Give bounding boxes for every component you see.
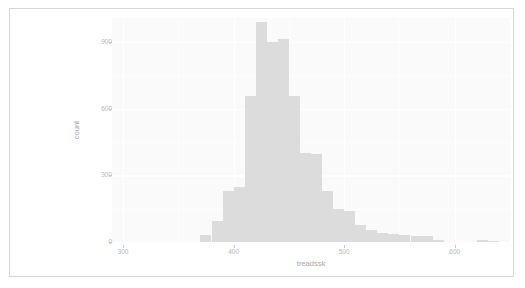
histogram-bar <box>311 154 322 242</box>
y-axis-tick-mark <box>109 242 112 243</box>
x-axis-tick-mark <box>234 245 235 248</box>
histogram-bar <box>344 211 355 242</box>
histogram-bar <box>477 240 488 242</box>
gridline-x-minor <box>399 18 400 242</box>
gridline-y-major <box>112 109 510 110</box>
x-axis-tick-label: 500 <box>339 248 350 256</box>
gridline-x-minor <box>178 18 179 242</box>
histogram-bar <box>488 241 499 242</box>
histogram-bar <box>256 22 267 242</box>
histogram-bar <box>366 230 377 242</box>
plot-panel <box>112 18 510 242</box>
x-axis-tick-mark <box>344 245 345 248</box>
x-axis-tick-label: 400 <box>228 248 239 256</box>
histogram-bar <box>245 96 256 242</box>
histogram-bar <box>289 96 300 242</box>
histogram-bar <box>223 191 234 242</box>
histogram-bar <box>333 209 344 242</box>
gridline-y-minor <box>112 142 510 143</box>
histogram-bar <box>200 235 211 242</box>
histogram-bar <box>411 236 422 242</box>
x-axis-tick-mark <box>123 245 124 248</box>
histogram-bar <box>377 233 388 242</box>
y-axis-tick-mark <box>109 42 112 43</box>
histogram-bar <box>234 187 245 242</box>
histogram-bar <box>322 191 333 242</box>
histogram-bar <box>355 225 366 242</box>
y-axis-tick-mark <box>109 109 112 110</box>
gridline-x-major <box>455 18 456 242</box>
x-axis-tick-label: 600 <box>449 248 460 256</box>
histogram-bar <box>267 42 278 242</box>
x-axis-title: treadssk <box>112 259 510 268</box>
histogram-bar <box>388 234 399 242</box>
histogram-bar <box>399 235 410 242</box>
gridline-y-minor <box>112 76 510 77</box>
x-axis-tick-mark <box>455 245 456 248</box>
gridline-x-major <box>123 18 124 242</box>
x-axis-tick-label: 300 <box>118 248 129 256</box>
y-axis-title: count <box>72 18 84 242</box>
screenshot-canvas: 0300600900 300400500600 treadssk count <box>0 0 525 288</box>
histogram-bar <box>433 240 444 242</box>
histogram-bar <box>278 39 289 242</box>
gridline-y-major <box>112 42 510 43</box>
y-axis-tick-mark <box>109 175 112 176</box>
histogram-bar <box>300 153 311 242</box>
histogram-bar <box>422 236 433 242</box>
histogram-bar <box>212 221 223 242</box>
gridline-x-major <box>344 18 345 242</box>
y-axis-tick-marks <box>109 18 112 242</box>
histogram-figure: 0300600900 300400500600 treadssk count <box>10 9 513 276</box>
x-axis-tick-labels: 300400500600 <box>112 245 510 257</box>
